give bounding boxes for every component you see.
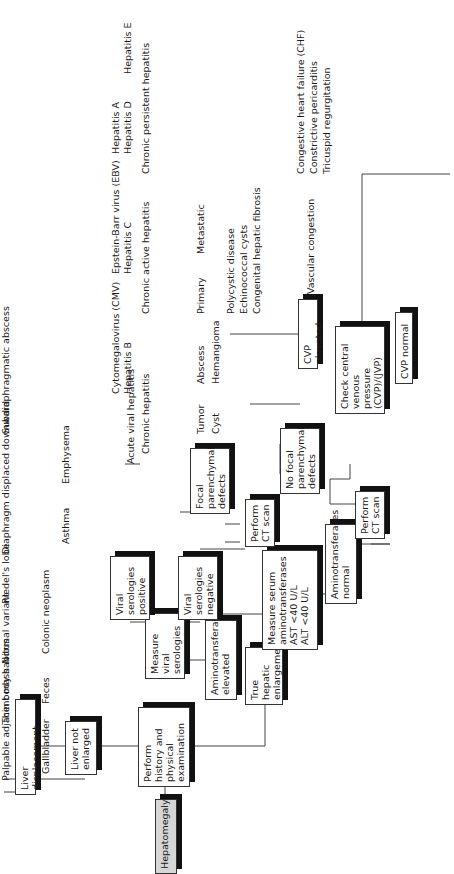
cvp-elevated-label: CVP elevated bbox=[302, 323, 324, 364]
history-exam-node: Perform history and physical examination bbox=[138, 707, 190, 787]
adjacent-mass-cause: Colonic neoplasm bbox=[40, 570, 51, 654]
ct-scan-1-node: Perform CT scan bbox=[245, 499, 275, 547]
adjacent-mass-cause: Feces bbox=[40, 677, 51, 704]
adjacent-mass-cause: Gallbladder bbox=[40, 719, 51, 774]
chronic-type: Chronic persistent hepatitis bbox=[140, 43, 151, 174]
flowchart-canvas: Hepatomegaly Perform history and physica… bbox=[0, 0, 454, 874]
viral-agent: Cytomegalovirus (CMV) bbox=[110, 282, 121, 394]
cyst-type: Congenital hepatic fibrosis bbox=[251, 187, 262, 314]
vascular-congestion-label: Vascular congestion bbox=[305, 199, 316, 294]
tumor-type: Primary bbox=[195, 277, 206, 314]
amino-normal-node: Aminotransferases normal bbox=[325, 524, 357, 604]
viral-negative-label: Viral serologies negative bbox=[182, 567, 215, 615]
liver-displacement-label: Liver displacement bbox=[19, 726, 41, 790]
viral-agent: Epstein-Barr virus (EBV) bbox=[110, 160, 121, 274]
focal-cause: Cyst bbox=[210, 413, 221, 434]
displacement-cause: Subdiaphragmatic abscess bbox=[0, 306, 11, 434]
no-focal-defects-label: No focal parenchymal defects bbox=[284, 427, 317, 489]
ct-scan-2-label: Perform CT scan bbox=[359, 497, 381, 534]
viral-agent: Hepatitis A bbox=[110, 102, 121, 154]
ast-threshold: AST <40 U/L bbox=[288, 555, 299, 645]
viral-positive-node: Viral serologies positive bbox=[110, 556, 150, 620]
liver-not-enlarged-node: Liver not enlarged bbox=[65, 721, 97, 775]
viral-negative-node: Viral serologies negative bbox=[178, 556, 218, 620]
focal-cause: Tumor bbox=[195, 405, 206, 434]
no-focal-defects-node: No focal parenchymal defects bbox=[280, 428, 320, 494]
focal-defects-node: Focal parenchymal defects bbox=[190, 448, 230, 514]
vascular-cause: Congestive heart failure (CHF) bbox=[295, 30, 306, 174]
cyst-type: Echinococcal cysts bbox=[238, 225, 249, 314]
vascular-cause: Tricuspid regurgitation bbox=[321, 67, 332, 174]
cyst-type: Polycystic disease bbox=[225, 228, 236, 314]
liver-displacement-node: Liver displacement bbox=[15, 699, 36, 795]
viral-positive-label: Viral serologies positive bbox=[114, 567, 147, 615]
measure-serum-node: Measure serum aminotransferases AST <40 … bbox=[262, 550, 318, 650]
hepatomegaly-label: Hepatomegaly bbox=[159, 799, 170, 869]
liver-not-enlarged-label: Liver not enlarged bbox=[69, 728, 91, 770]
chronic-type: Chronic active hepatitis bbox=[140, 202, 151, 314]
amino-normal-label: Aminotransferases normal bbox=[329, 510, 351, 599]
viral-agent: Hepatitis B bbox=[122, 342, 133, 394]
measure-viral-node: Measure viral serologies bbox=[145, 613, 185, 679]
history-exam-label: Perform history and physical examination bbox=[142, 723, 186, 782]
ct-scan-2-node: Perform CT scan bbox=[355, 491, 385, 539]
true-enlargement-node: True hepatic enlargement bbox=[245, 647, 283, 705]
vascular-cause: Constrictive pericarditis bbox=[308, 61, 319, 174]
hepatomegaly-node: Hepatomegaly bbox=[155, 799, 177, 874]
diaphragm-cause: Emphysema bbox=[60, 425, 71, 484]
focal-defects-label: Focal parenchymal defects bbox=[194, 447, 227, 509]
focal-cause: Hemangioma bbox=[210, 320, 221, 384]
check-cvp-label: Check central venous pressure (CVP)/(JVP… bbox=[339, 344, 383, 409]
cvp-normal-node: CVP normal bbox=[395, 312, 413, 384]
alt-threshold: ALT <40 U/L bbox=[299, 555, 310, 645]
measure-viral-label: Measure viral serologies bbox=[149, 626, 182, 674]
tumor-type: Metastatic bbox=[195, 204, 206, 254]
cvp-normal-label: CVP normal bbox=[399, 324, 410, 379]
chronic-hepatitis-label: Chronic hepatitis bbox=[140, 374, 151, 454]
cvp-elevated-node: CVP elevated bbox=[298, 299, 318, 369]
check-cvp-node: Check central venous pressure (CVP)/(JVP… bbox=[335, 326, 385, 414]
amino-elevated-node: Aminotransferases elevated bbox=[205, 620, 237, 700]
viral-agent: Hepatitis D bbox=[122, 101, 133, 154]
ct-scan-1-label: Perform CT scan bbox=[249, 505, 271, 542]
viral-agent: Hepatitis C bbox=[122, 222, 133, 274]
diaphragm-cause: Asthma bbox=[60, 508, 71, 544]
measure-serum-label: Measure serum aminotransferases bbox=[266, 555, 288, 645]
focal-cause: Abscess bbox=[195, 346, 206, 384]
viral-agent: Hepatitis E bbox=[122, 22, 133, 74]
